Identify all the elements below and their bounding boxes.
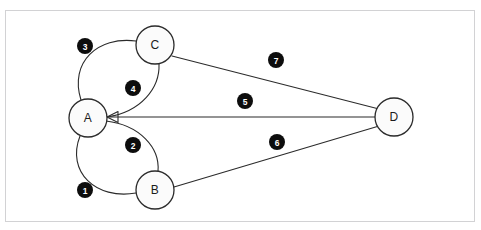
node-C[interactable] xyxy=(136,26,174,64)
edge-badge-4[interactable] xyxy=(125,80,141,96)
graph-canvas xyxy=(0,0,481,230)
diagram-screenshot: • • • • ABCD1234567 xyxy=(0,0,481,230)
edge-badge-7[interactable] xyxy=(268,52,284,68)
edges-layer xyxy=(77,40,379,194)
edge-badge-3[interactable] xyxy=(77,38,93,54)
node-A[interactable] xyxy=(69,99,107,137)
edge-badge-1[interactable] xyxy=(77,182,93,198)
edge-badge-2[interactable] xyxy=(125,137,141,153)
node-B[interactable] xyxy=(136,171,174,209)
node-D[interactable] xyxy=(375,98,413,136)
edge-badge-5[interactable] xyxy=(237,93,253,109)
edge-badge-6[interactable] xyxy=(269,134,285,150)
